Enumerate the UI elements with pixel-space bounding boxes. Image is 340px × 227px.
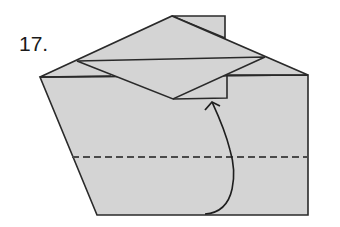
left-inner-edge bbox=[40, 76, 111, 77]
origami-diagram bbox=[0, 0, 340, 227]
